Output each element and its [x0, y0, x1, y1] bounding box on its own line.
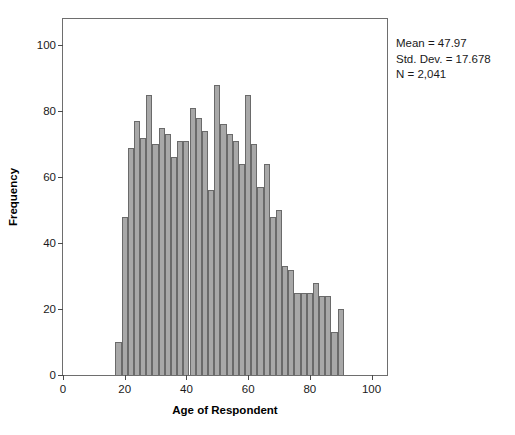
- y-axis-tick-label: 20: [43, 303, 56, 315]
- x-axis-tick: [186, 375, 187, 380]
- stat-mean: Mean = 47.97: [396, 36, 491, 52]
- x-axis-tick-label: 80: [303, 383, 316, 395]
- statistics-annotation: Mean = 47.97 Std. Dev. = 17.678 N = 2,04…: [396, 36, 491, 83]
- stat-n: N = 2,041: [396, 67, 491, 83]
- y-axis-tick: [58, 177, 63, 178]
- x-axis-tick-label: 0: [60, 383, 66, 395]
- y-axis-tick: [58, 243, 63, 244]
- x-axis-tick: [310, 375, 311, 380]
- y-axis-tick-label: 0: [50, 369, 56, 381]
- bars-layer: [63, 19, 387, 375]
- histogram-bar: [338, 309, 344, 375]
- y-axis-title: Frequency: [7, 168, 19, 226]
- x-axis-tick-label: 100: [362, 383, 381, 395]
- y-axis-tick: [58, 45, 63, 46]
- y-axis-tick: [58, 309, 63, 310]
- y-axis-tick-label: 40: [43, 237, 56, 249]
- x-axis-tick-label: 40: [180, 383, 193, 395]
- x-axis-tick: [372, 375, 373, 380]
- stat-std-dev: Std. Dev. = 17.678: [396, 52, 491, 68]
- x-axis-tick-label: 20: [118, 383, 131, 395]
- y-axis-tick-label: 60: [43, 171, 56, 183]
- x-axis-tick-label: 60: [242, 383, 255, 395]
- x-axis-tick: [125, 375, 126, 380]
- histogram-figure: Frequency 020406080100 020406080100 Age …: [0, 0, 515, 435]
- x-axis-tick: [63, 375, 64, 380]
- x-axis-title: Age of Respondent: [62, 404, 388, 416]
- y-axis-tick-label: 100: [37, 39, 56, 51]
- y-axis-tick: [58, 111, 63, 112]
- plot-area: 020406080100 020406080100: [62, 18, 388, 376]
- y-axis-tick-label: 80: [43, 105, 56, 117]
- x-axis-tick: [248, 375, 249, 380]
